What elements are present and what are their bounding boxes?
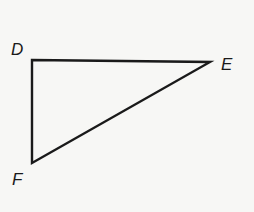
triangle-def [32, 60, 210, 163]
triangle-diagram: D E F [0, 0, 254, 212]
vertex-label-d: D [11, 40, 23, 59]
vertex-label-e: E [221, 55, 233, 74]
vertex-label-f: F [12, 170, 24, 189]
